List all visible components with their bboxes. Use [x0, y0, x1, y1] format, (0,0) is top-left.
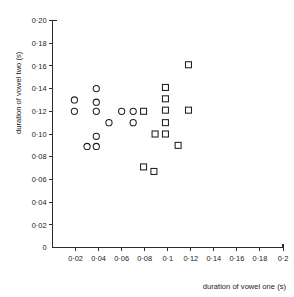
axis-frame	[53, 21, 284, 248]
data-point-square	[162, 107, 168, 113]
series-squares	[141, 62, 192, 175]
data-point-square	[162, 96, 168, 102]
scatter-plot-figure: 0·020·040·060·080·10·120·140·160·180·2 0…	[0, 0, 294, 297]
x-tick-label: 0·08	[137, 254, 152, 263]
x-tick-label: 0·06	[114, 254, 129, 263]
x-tick-label: 0·1	[162, 254, 173, 263]
x-tick-label: 0·02	[68, 254, 83, 263]
data-markers-group	[71, 62, 191, 175]
y-tick-label: 0·12	[32, 107, 47, 116]
data-point-square	[162, 120, 168, 126]
y-tick-label: 0·08	[32, 152, 47, 161]
x-tick-label: 0·04	[91, 254, 106, 263]
data-point-circle	[93, 86, 99, 92]
data-point-circle	[71, 97, 77, 103]
data-point-square	[162, 84, 168, 90]
x-tick-label: 0·12	[183, 254, 198, 263]
data-point-square	[185, 62, 191, 68]
y-tick-label: 0·04	[32, 198, 47, 207]
data-point-square	[151, 168, 157, 174]
x-tick-label: 0·2	[278, 254, 289, 263]
y-tick-label: 0·20	[32, 16, 47, 25]
data-point-circle	[93, 133, 99, 139]
y-tick-label: 0·14	[32, 84, 47, 93]
data-point-square	[141, 164, 147, 170]
data-point-circle	[130, 108, 136, 114]
data-point-circle	[106, 120, 112, 126]
data-point-square	[152, 131, 158, 137]
series-circles	[71, 86, 136, 150]
chart-canvas: 0·020·040·060·080·10·120·140·160·180·2 0…	[0, 0, 294, 297]
data-point-square	[141, 108, 147, 114]
data-point-circle	[93, 108, 99, 114]
x-tick-label: 0·14	[206, 254, 221, 263]
data-point-circle	[119, 108, 125, 114]
y-tick-label: 0·18	[32, 39, 47, 48]
y-tick-label: 0·06	[32, 175, 47, 184]
axes-group	[53, 21, 284, 248]
data-point-circle	[130, 120, 136, 126]
data-point-square	[162, 131, 168, 137]
y-tick-label: 0·10	[32, 130, 47, 139]
data-point-circle	[93, 143, 99, 149]
x-tick-label: 0·18	[253, 254, 268, 263]
data-point-circle	[71, 108, 77, 114]
x-axis-tick-labels: 0·020·040·060·080·10·120·140·160·180·2	[68, 254, 288, 263]
y-tick-label: 0·02	[32, 221, 47, 230]
y-axis-tick-labels: 00·020·040·060·080·100·120·140·160·180·2…	[32, 16, 47, 252]
y-axis-title: duration of vowel two (s)	[14, 51, 23, 134]
x-axis-title: duration of vowel one (s)	[203, 282, 287, 291]
x-tick-label: 0·16	[230, 254, 245, 263]
data-point-square	[185, 107, 191, 113]
data-point-square	[175, 142, 181, 148]
y-tick-label: 0·16	[32, 62, 47, 71]
y-tick-label: 0	[42, 243, 46, 252]
data-point-circle	[93, 99, 99, 105]
data-point-circle	[84, 143, 90, 149]
